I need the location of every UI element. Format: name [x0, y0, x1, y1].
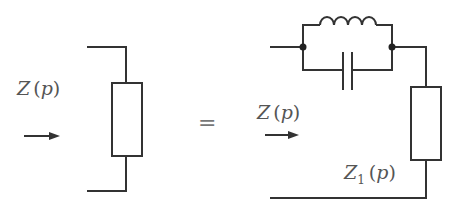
circuit-diagram: Z(p) = Z(p) Z1(p) [0, 0, 462, 223]
right-label-close: ) [293, 101, 300, 123]
right-label: Z(p) [256, 101, 300, 123]
z1-label-sub: 1 [357, 173, 365, 187]
z1-label-arg: p [376, 161, 388, 183]
right-node-to-resistor-wire [392, 47, 426, 87]
left-label-arg: p [41, 77, 53, 99]
junction-node-right [389, 44, 396, 51]
inductor-icon [320, 17, 376, 25]
left-label-close: ) [53, 77, 60, 99]
svg-text:Z(p): Z(p) [256, 101, 300, 123]
right-impedance-resistor [411, 87, 441, 160]
left-label-var: Z [16, 77, 31, 99]
junction-node-left [300, 44, 307, 51]
z1-label-var: Z [343, 161, 358, 183]
inductor-branch-wire-left [303, 25, 320, 47]
svg-text:Z(p): Z(p) [16, 77, 60, 99]
capacitor-branch-wire-left [303, 47, 343, 70]
capacitor-branch-wire-right [352, 47, 392, 70]
svg-text:Z1(p): Z1(p) [343, 161, 396, 187]
z1-label-open: ( [369, 161, 376, 183]
right-label-var: Z [256, 101, 271, 123]
left-arrow-icon [24, 132, 60, 140]
left-circuit [87, 47, 142, 191]
z1-label-close: ) [388, 161, 395, 183]
left-label-open: ( [33, 77, 40, 99]
right-label-open: ( [273, 101, 280, 123]
left-label: Z(p) [16, 77, 60, 99]
left-top-wire [87, 47, 126, 83]
z1-label: Z1(p) [343, 161, 396, 187]
inductor-branch-wire-right [376, 25, 392, 47]
equals-sign: = [198, 110, 216, 135]
right-label-arg: p [281, 101, 293, 123]
right-arrow-icon [265, 131, 299, 139]
left-impedance-resistor [112, 83, 142, 156]
left-bottom-wire [87, 156, 126, 191]
